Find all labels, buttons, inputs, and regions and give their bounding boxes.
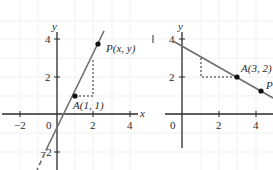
left-y-axis-label: y [51, 20, 57, 32]
left-point-P [95, 41, 100, 46]
right-x-tick-4: 4 [253, 119, 259, 131]
right-point-P [258, 88, 263, 93]
right-point-P-label: P [265, 79, 273, 91]
right-point-A-label: A(3, 2) [240, 62, 272, 75]
left-point-A [72, 93, 77, 98]
right-x-tick-2: 2 [216, 119, 222, 131]
left-x-tick-0: 0 [46, 119, 52, 131]
left-x-tick-neg2: −2 [14, 119, 26, 131]
right-y-tick-2: 2 [169, 71, 175, 83]
left-y-tick-4: 4 [45, 33, 51, 45]
background-grid [0, 0, 273, 170]
right-x-tick-0: 0 [170, 119, 176, 131]
figure-canvas: −2 0 2 4 4 2 −2 y x A(1, 1) P(x, y) [0, 0, 273, 170]
left-x-axis-label: x [139, 107, 145, 119]
left-graph: −2 0 2 4 4 2 −2 y x A(1, 1) P(x, y) [2, 20, 145, 170]
right-point-A [234, 74, 239, 79]
right-y-tick-4: 4 [169, 33, 175, 45]
left-x-tick-2: 2 [90, 119, 96, 131]
left-x-tick-4: 4 [127, 119, 133, 131]
right-y-axis-label: y [177, 20, 183, 32]
left-y-tick-2: 2 [45, 71, 51, 83]
left-y-tick-neg2: −2 [40, 146, 52, 158]
left-point-A-label: A(1, 1) [72, 99, 104, 112]
left-point-P-label: P(x, y) [105, 42, 136, 55]
